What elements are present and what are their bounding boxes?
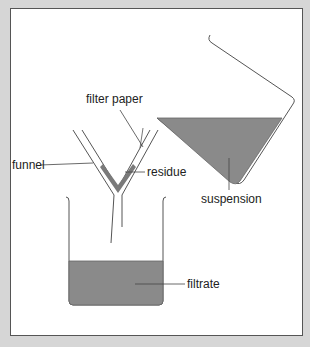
label-residue: residue — [147, 166, 186, 178]
label-suspension: suspension — [201, 193, 262, 205]
label-funnel: funnel — [12, 159, 45, 171]
label-filtrate: filtrate — [187, 278, 220, 290]
pouring-beaker — [157, 35, 294, 184]
collecting-beaker — [66, 197, 166, 305]
label-filter-paper: filter paper — [86, 93, 143, 105]
